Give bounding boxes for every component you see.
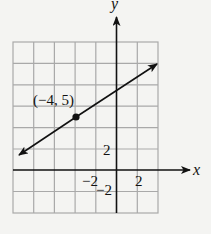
y-tick-2: 2 — [103, 142, 111, 158]
coordinate-graph: y x (−4, 5) 2 −2 2 −2 — [0, 0, 211, 234]
point-label: (−4, 5) — [33, 92, 74, 109]
y-axis-label: y — [109, 0, 119, 13]
point-marker — [72, 113, 79, 120]
x-axis-label: x — [192, 161, 200, 178]
x-tick-2: 2 — [135, 173, 143, 189]
y-tick-neg2: −2 — [96, 182, 112, 198]
